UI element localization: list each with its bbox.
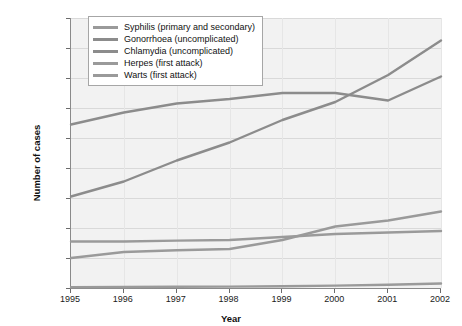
legend-swatch xyxy=(93,62,118,65)
x-tick-mark xyxy=(334,289,335,293)
x-tick-label: 1999 xyxy=(271,294,291,304)
x-tick-label: 2002 xyxy=(430,294,450,304)
y-tick-mark xyxy=(66,78,70,79)
grid-line-vertical xyxy=(441,18,442,288)
x-tick-label: 1996 xyxy=(113,294,133,304)
legend-item[interactable]: Chlamydia (uncomplicated) xyxy=(93,45,255,57)
x-tick-label: 1997 xyxy=(166,294,186,304)
series-line xyxy=(71,212,441,259)
legend-swatch xyxy=(93,74,118,77)
y-tick-mark xyxy=(66,228,70,229)
legend-item-label: Warts (first attack) xyxy=(124,69,197,81)
legend-item-label: Syphilis (primary and secondary) xyxy=(124,21,255,33)
y-tick-mark xyxy=(66,198,70,199)
x-tick-mark xyxy=(440,289,441,293)
legend-swatch xyxy=(93,50,118,53)
legend-item-label: Chlamydia (uncomplicated) xyxy=(124,45,233,57)
sti-cases-line-chart: Number of cases 010 00020 00030 00040 00… xyxy=(0,0,462,326)
x-tick-mark xyxy=(229,289,230,293)
y-tick-mark xyxy=(66,108,70,109)
series-line xyxy=(71,284,441,288)
legend-swatch xyxy=(93,38,118,41)
x-tick-label: 1998 xyxy=(219,294,239,304)
y-tick-mark xyxy=(66,168,70,169)
x-tick-mark xyxy=(281,289,282,293)
legend-item[interactable]: Gonorrhoea (uncomplicated) xyxy=(93,33,255,45)
x-tick-mark xyxy=(123,289,124,293)
chart-legend: Syphilis (primary and secondary)Gonorrho… xyxy=(88,16,263,86)
x-tick-mark xyxy=(387,289,388,293)
x-axis-title: Year xyxy=(0,313,462,324)
x-tick-mark xyxy=(70,289,71,293)
y-tick-mark xyxy=(66,48,70,49)
legend-item[interactable]: Syphilis (primary and secondary) xyxy=(93,21,255,33)
y-tick-mark xyxy=(66,138,70,139)
x-tick-label: 2001 xyxy=(377,294,397,304)
legend-item[interactable]: Herpes (first attack) xyxy=(93,57,255,69)
x-tick-label: 1995 xyxy=(60,294,80,304)
y-tick-mark xyxy=(66,258,70,259)
x-tick-label: 2000 xyxy=(324,294,344,304)
legend-item-label: Herpes (first attack) xyxy=(124,57,203,69)
y-axis-title: Number of cases xyxy=(31,125,42,202)
legend-swatch xyxy=(93,26,118,29)
y-tick-mark xyxy=(66,18,70,19)
legend-item-label: Gonorrhoea (uncomplicated) xyxy=(124,33,239,45)
legend-item[interactable]: Warts (first attack) xyxy=(93,69,255,81)
x-tick-mark xyxy=(176,289,177,293)
series-line xyxy=(71,231,441,242)
